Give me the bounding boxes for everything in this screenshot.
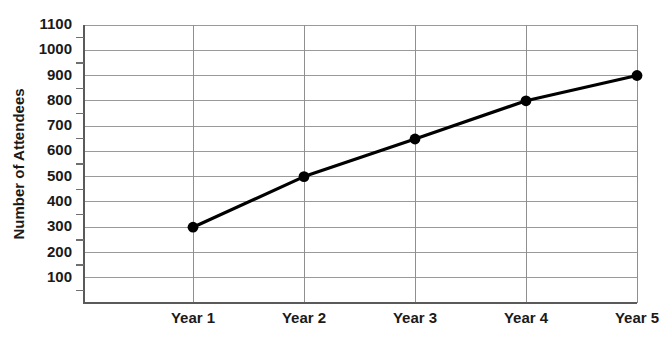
y-axis-title: Number of Attendees bbox=[10, 88, 27, 239]
ytick-label-700: 700 bbox=[47, 116, 72, 133]
ytick-label-100: 100 bbox=[47, 268, 72, 285]
chart-canvas: 100 200 300 400 500 600 700 800 900 1000… bbox=[0, 0, 672, 341]
data-point-year-2 bbox=[299, 171, 310, 182]
data-point-year-3 bbox=[410, 134, 421, 145]
line-chart: 100 200 300 400 500 600 700 800 900 1000… bbox=[0, 0, 672, 341]
ytick-label-500: 500 bbox=[47, 167, 72, 184]
y-axis-minor-ticks bbox=[76, 38, 84, 291]
ytick-label-300: 300 bbox=[47, 217, 72, 234]
ytick-label-200: 200 bbox=[47, 243, 72, 260]
ytick-label-400: 400 bbox=[47, 192, 72, 209]
ytick-label-900: 900 bbox=[47, 66, 72, 83]
xtick-label-year-2: Year 2 bbox=[282, 309, 326, 326]
ytick-label-600: 600 bbox=[47, 141, 72, 158]
ytick-label-1100: 1100 bbox=[39, 15, 72, 32]
ytick-label-800: 800 bbox=[47, 91, 72, 108]
data-point-year-1 bbox=[188, 222, 199, 233]
xtick-label-year-5: Year 5 bbox=[615, 309, 659, 326]
y-axis-tick-labels: 100 200 300 400 500 600 700 800 900 1000… bbox=[39, 15, 72, 285]
plot-area-background bbox=[84, 25, 637, 303]
x-axis-tick-labels: Year 1 Year 2 Year 3 Year 4 Year 5 bbox=[171, 309, 659, 326]
data-point-year-4 bbox=[521, 95, 532, 106]
xtick-label-year-4: Year 4 bbox=[504, 309, 549, 326]
xtick-label-year-3: Year 3 bbox=[393, 309, 437, 326]
xtick-label-year-1: Year 1 bbox=[171, 309, 215, 326]
ytick-label-1000: 1000 bbox=[39, 40, 72, 57]
data-point-year-5 bbox=[632, 70, 643, 81]
